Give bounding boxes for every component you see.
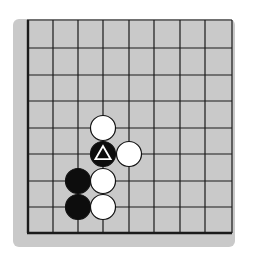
white-stone [91, 169, 116, 194]
go-board [0, 0, 253, 256]
go-diagram [0, 0, 253, 256]
black-stone [66, 195, 91, 220]
black-stone [91, 142, 116, 167]
black-stone [66, 169, 91, 194]
white-stone [117, 142, 142, 167]
white-stone [91, 195, 116, 220]
board-background [13, 19, 235, 247]
white-stone [91, 116, 116, 141]
